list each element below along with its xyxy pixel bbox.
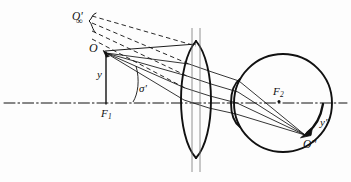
optical-ray-diagram: O'∞ O y F1 σ' F2 y'' O'' [0,0,351,182]
incident-ray-bundle [106,53,189,100]
eye-converging-rays [236,81,305,135]
biconvex-lens [181,28,211,172]
emergent-ray-3 [210,96,237,103]
lens-right-surface [196,41,211,158]
F2-dot [278,100,281,103]
front-focal-point-label: F1 [101,108,112,121]
F1-subscript: 1 [108,112,112,121]
lens-internal-ray-2 [187,76,211,84]
dashed-ray-1 [92,16,196,46]
aperture-angle-label: σ' [139,83,147,94]
retinal-image-point-label: O'' [303,139,316,151]
object-height-label: y [97,69,102,80]
diagram-canvas [0,0,351,182]
F1-main: F [101,107,108,119]
virtual-image-at-infinity-label: O'∞ [72,11,83,26]
eye-ray-4 [236,114,305,135]
Oinf-subscript: ∞ [76,16,83,26]
eye-focal-point-label: F2 [273,86,284,99]
object-point-label: O [89,42,98,54]
eye-ray-3 [237,103,305,135]
eye-focal-point-marker [278,100,281,103]
lens-internal-ray-3 [185,88,210,96]
eye-ray-2 [238,92,305,135]
aperture-angle-arc [133,66,138,102]
sigma-arc [133,66,138,102]
F2-main: F [273,85,280,97]
virtual-image-construction-lines [92,16,196,88]
lens-internal-ray-4 [184,100,209,108]
retinal-image-height-label: y'' [320,117,330,128]
eye-ray-1 [239,81,305,135]
incident-ray-2 [106,53,187,76]
F2-subscript: 2 [280,90,284,99]
emergent-ray-1 [212,72,239,81]
